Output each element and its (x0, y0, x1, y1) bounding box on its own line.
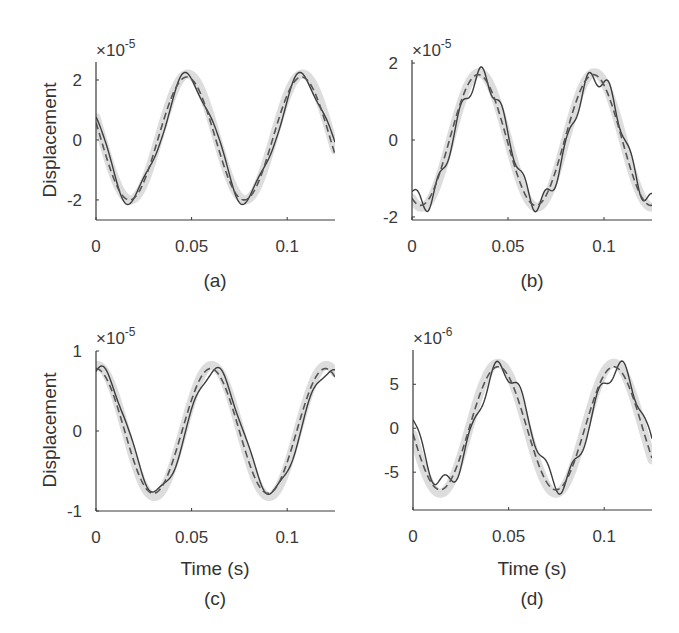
x-tick-label: 0.1 (275, 237, 299, 256)
x-tick-label: 0.05 (492, 527, 525, 546)
exponent-label: ×10-5 (96, 37, 136, 60)
y-tick-label: 0 (390, 419, 399, 438)
plot-area (96, 365, 335, 496)
plot-area (96, 72, 335, 204)
x-tick-label: 0.05 (175, 237, 208, 256)
x-axis-label: Time (s) (498, 558, 567, 579)
plot-area (413, 361, 652, 494)
y-tick-label: 0 (389, 131, 398, 150)
x-axis-label: Time (s) (181, 558, 250, 579)
series-reference (413, 363, 652, 493)
y-tick-label: 5 (390, 375, 399, 394)
y-axis-label: Displacement (39, 372, 60, 488)
y-tick-label: 0 (73, 131, 82, 150)
y-tick-label: 1 (73, 342, 82, 361)
series-estimate (413, 367, 652, 490)
y-tick-label: 2 (73, 71, 82, 90)
y-tick-label: 0 (73, 422, 82, 441)
x-tick-label: 0.1 (275, 528, 299, 547)
x-tick-label: 0.1 (592, 527, 616, 546)
y-tick-label: -5 (384, 463, 399, 482)
y-tick-label: -1 (67, 502, 82, 521)
series-reference (412, 73, 652, 208)
panel-caption: (c) (204, 588, 226, 609)
x-tick-label: 0 (91, 528, 100, 547)
axes: 00.050.120-2 (383, 54, 652, 256)
x-tick-label: 0.05 (491, 237, 524, 256)
x-tick-label: 0.1 (592, 237, 616, 256)
panel-d: ×10-6 00.050.150-5 Time (s) (d) (384, 325, 652, 609)
exponent-label: ×10-5 (412, 37, 452, 60)
x-tick-label: 0 (91, 237, 100, 256)
panel-a: Displacement ×10-5 00.050.120-2 (a) (39, 37, 335, 291)
x-tick-label: 0 (407, 237, 416, 256)
panel-caption: (d) (520, 588, 543, 609)
panel-caption: (a) (203, 270, 226, 291)
y-tick-label: 2 (389, 54, 398, 73)
panel-c: Displacement ×10-5 00.050.110-1 Time (s)… (39, 325, 335, 609)
y-tick-label: -2 (383, 208, 398, 227)
series-response (413, 361, 652, 494)
panel-caption: (b) (520, 270, 543, 291)
panel-b: ×10-5 00.050.120-2 (b) (383, 37, 652, 291)
y-tick-label: -2 (67, 191, 82, 210)
x-tick-label: 0.05 (175, 528, 208, 547)
series-reference (96, 74, 335, 200)
series-reference (96, 365, 335, 496)
plot-area (412, 67, 652, 212)
exponent-label: ×10-5 (96, 325, 136, 348)
x-tick-label: 0 (408, 527, 417, 546)
figure: Displacement ×10-5 00.050.120-2 (a) ×10-… (0, 0, 679, 633)
y-axis-label: Displacement (39, 82, 60, 198)
exponent-label: ×10-6 (413, 325, 453, 348)
